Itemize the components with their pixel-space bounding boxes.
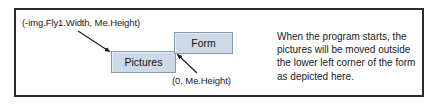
annotation-arrows: [0, 0, 440, 105]
arrow-to-form-origin: [178, 55, 198, 74]
diagram-figure: (-img.Fly1.Width, Me.Height) (0, Me.Heig…: [0, 0, 440, 105]
arrow-to-pictures-corner: [78, 31, 110, 52]
